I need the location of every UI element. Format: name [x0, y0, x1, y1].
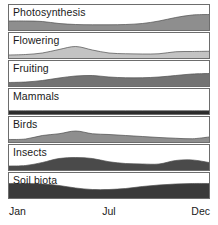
- panel-label-flowering: Flowering: [13, 34, 59, 46]
- x-axis-tick-dec: Dec: [191, 204, 210, 218]
- panel-label-insects: Insects: [13, 146, 47, 158]
- panel-fruiting: Fruiting: [8, 60, 210, 87]
- area-chart-birds: [9, 117, 209, 142]
- panel-flowering: Flowering: [8, 32, 210, 59]
- panel-label-photosynthesis: Photosynthesis: [13, 6, 86, 18]
- x-axis-tick-jan: Jan: [9, 204, 26, 218]
- panel-insects: Insects: [8, 144, 210, 171]
- panel-label-mammals: Mammals: [13, 90, 59, 102]
- x-axis-tick-jul: Jul: [102, 204, 115, 218]
- panel-label-birds: Birds: [13, 118, 37, 130]
- panel-label-soil-biota: Soil biota: [13, 174, 57, 186]
- x-axis: Jan Jul Dec: [8, 204, 210, 220]
- seasonal-activity-figure: Photosynthesis Flowering Fruiting Mammal…: [0, 0, 218, 225]
- panel-mammals: Mammals: [8, 88, 210, 115]
- panel-stack: Photosynthesis Flowering Fruiting Mammal…: [8, 4, 210, 199]
- panel-birds: Birds: [8, 116, 210, 143]
- panel-soil-biota: Soil biota: [8, 172, 210, 199]
- panel-label-fruiting: Fruiting: [13, 62, 49, 74]
- panel-photosynthesis: Photosynthesis: [8, 4, 210, 31]
